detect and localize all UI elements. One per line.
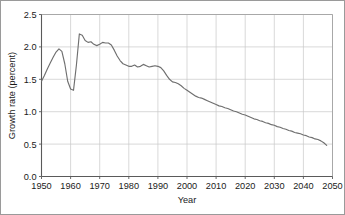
x-axis-title: Year bbox=[178, 195, 197, 205]
growth-rate-line-chart: 1950196019701980199020002010202020302040… bbox=[1, 1, 345, 215]
x-tick-label: 1980 bbox=[119, 181, 139, 191]
x-axis-title-text: Year bbox=[178, 195, 197, 205]
x-tick-label: 2050 bbox=[322, 181, 342, 191]
y-axis-title-text: Growth rate (percent) bbox=[7, 52, 17, 139]
x-tick-label: 1990 bbox=[148, 181, 168, 191]
x-axis-tick-labels: 1950196019701980199020002010202020302040… bbox=[31, 181, 342, 191]
x-tick-label: 2020 bbox=[235, 181, 255, 191]
y-tick-label: 0.0 bbox=[24, 172, 37, 182]
x-tick-label: 2030 bbox=[264, 181, 284, 191]
y-tick-label: 2.0 bbox=[24, 42, 37, 52]
chart-figure: 1950196019701980199020002010202020302040… bbox=[0, 0, 345, 215]
y-tick-label: 1.5 bbox=[24, 75, 37, 85]
x-tick-label: 1970 bbox=[89, 181, 109, 191]
x-tick-label: 2000 bbox=[177, 181, 197, 191]
y-tick-label: 0.5 bbox=[24, 140, 37, 150]
y-axis-tick-labels: 0.00.51.01.52.02.5 bbox=[24, 10, 37, 182]
y-axis-title: Growth rate (percent) bbox=[7, 52, 17, 139]
x-tick-label: 2040 bbox=[293, 181, 313, 191]
x-tick-label: 1950 bbox=[31, 181, 51, 191]
x-tick-label: 1960 bbox=[60, 181, 80, 191]
y-tick-label: 1.0 bbox=[24, 107, 37, 117]
x-tick-label: 2010 bbox=[206, 181, 226, 191]
y-tick-label: 2.5 bbox=[24, 10, 37, 20]
